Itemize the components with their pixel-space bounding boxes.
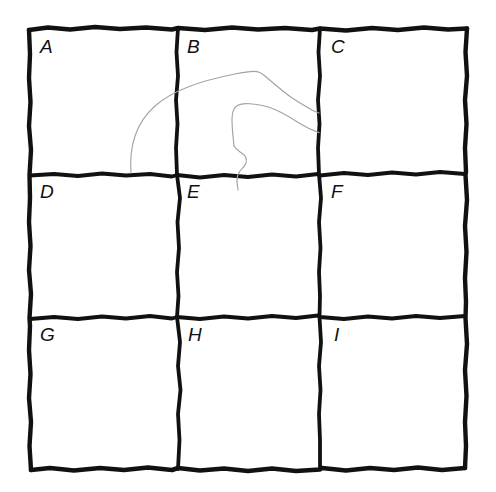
cell-region-i[interactable]: [321, 319, 466, 469]
cell-region-c[interactable]: [321, 30, 466, 175]
cell-region-b[interactable]: [178, 30, 320, 175]
cell-region-h[interactable]: [178, 319, 320, 469]
cell-region-a[interactable]: [31, 30, 177, 175]
sketch-canvas: A B C D E F G H I: [0, 0, 496, 492]
cell-region-e[interactable]: [178, 176, 320, 318]
cell-region-g[interactable]: [31, 319, 177, 469]
cell-region-d[interactable]: [31, 176, 177, 318]
cell-region-f[interactable]: [321, 176, 466, 318]
